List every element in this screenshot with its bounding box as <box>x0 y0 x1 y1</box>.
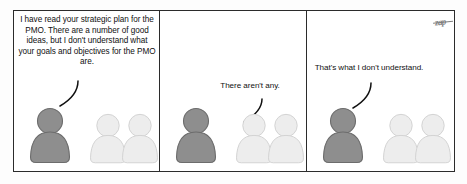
speech-text-panel-2: There aren't any. <box>196 81 304 91</box>
artist-signature: zap <box>435 16 447 27</box>
figure-dark-left-panel-1 <box>28 107 72 165</box>
figure-dark-left-panel-2 <box>174 107 218 165</box>
figure-light-right-panel-3 <box>413 113 453 165</box>
comic-strip-frame: I have read your strategic plan for the … <box>13 10 455 172</box>
figure-light-right-panel-1 <box>120 113 160 165</box>
speech-text-panel-1: I have read your strategic plan for the … <box>18 15 156 68</box>
comic-panel-2: There aren't any. <box>160 11 307 171</box>
figure-dark-left-panel-3 <box>321 107 365 165</box>
comic-panel-3: zap That's what I don't understand. <box>307 11 453 171</box>
figure-light-right-panel-2 <box>266 113 306 165</box>
speech-text-panel-3: That's what I don't understand. <box>313 63 425 73</box>
comic-strip: I have read your strategic plan for the … <box>0 0 467 184</box>
comic-panel-1: I have read your strategic plan for the … <box>14 11 160 171</box>
